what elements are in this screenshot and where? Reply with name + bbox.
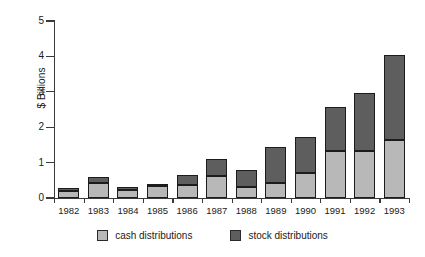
legend-label-stock: stock distributions [248,230,327,241]
bar-1990 [295,21,316,198]
bar-segment-cash-1989 [265,183,286,198]
bar-1984 [117,21,138,198]
x-axis-tick [172,198,173,203]
x-axis-tick [113,198,114,203]
bar-1992 [354,21,375,198]
legend-item-stock: stock distributions [230,230,327,241]
bar-segment-cash-1984 [117,190,138,198]
bar-segment-stock-1989 [265,147,286,183]
bar-1993 [384,21,405,198]
bar-segment-cash-1990 [295,173,316,198]
x-axis-tick [409,198,410,203]
y-axis-tick-label: 2 [28,122,44,132]
bar-segment-cash-1987 [206,176,227,198]
y-axis-tick-label: 0 [28,193,44,203]
bar-segment-cash-1991 [325,151,346,198]
bar-segment-cash-1992 [354,151,375,198]
bar-segment-stock-1990 [295,137,316,172]
bar-segment-cash-1982 [58,191,79,198]
stacked-bar-chart: $ Billions 012345 1982198319841985198619… [0,0,425,257]
bar-1986 [177,21,198,198]
y-axis-tick-label: 5 [28,16,44,26]
x-axis-tick [84,198,85,203]
x-axis-tick [291,198,292,203]
bar-segment-stock-1993 [384,55,405,141]
bar-segment-stock-1982 [58,188,79,191]
bar-segment-cash-1988 [236,187,257,198]
legend-swatch-cash-icon [97,230,108,241]
bar-segment-stock-1985 [147,184,168,187]
bar-segment-stock-1983 [88,177,109,183]
legend-item-cash: cash distributions [97,230,192,241]
x-axis-tick [202,198,203,203]
bar-1985 [147,21,168,198]
bar-segment-stock-1987 [206,159,227,176]
bar-segment-cash-1993 [384,140,405,198]
bar-segment-stock-1991 [325,107,346,151]
bar-segment-cash-1985 [147,186,168,198]
y-axis-tick-label: 3 [28,87,44,97]
bar-segment-stock-1992 [354,93,375,151]
bar-segment-cash-1983 [88,183,109,198]
x-axis-tick [143,198,144,203]
bar-segment-stock-1988 [236,170,257,188]
x-axis-tick [350,198,351,203]
x-axis-tick [379,198,380,203]
x-axis-tick [261,198,262,203]
bar-1982 [58,21,79,198]
bar-segment-stock-1984 [117,187,138,190]
x-axis-tick [54,198,55,203]
y-axis-tick-label: 1 [28,158,44,168]
y-axis-tick-label: 4 [28,51,44,61]
x-axis-tick-label: 1993 [374,205,414,217]
plot-area [54,21,409,198]
x-axis-tick [232,198,233,203]
bar-1983 [88,21,109,198]
bar-1987 [206,21,227,198]
x-axis-tick [320,198,321,203]
bar-segment-stock-1986 [177,175,198,186]
bar-1989 [265,21,286,198]
legend-label-cash: cash distributions [115,230,192,241]
bar-1991 [325,21,346,198]
bar-1988 [236,21,257,198]
bar-segment-cash-1986 [177,185,198,198]
chart-legend: cash distributions stock distributions [0,230,425,241]
legend-swatch-stock-icon [230,230,241,241]
